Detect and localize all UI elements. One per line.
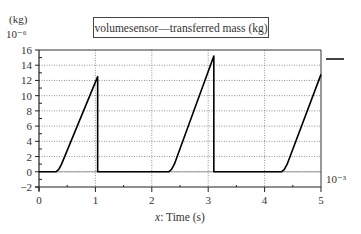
chart: −20246810121416012345 volumesensor—trans… <box>0 0 361 234</box>
x-tick-label: 2 <box>149 194 155 206</box>
y-tick-label: 6 <box>27 120 33 132</box>
y-tick-label: 0 <box>27 166 33 178</box>
y-tick-label: 2 <box>27 151 33 163</box>
x-tick-label: 5 <box>318 194 324 206</box>
chart-title: volumesensor—transferred mass (kg) <box>94 22 267 35</box>
x-tick-label: 1 <box>93 194 99 206</box>
x-tick-label: 3 <box>205 194 211 206</box>
y-tick-label: 4 <box>27 135 33 147</box>
y-scale-label: 10⁻⁶ <box>6 28 27 40</box>
y-unit-label: (kg) <box>9 13 28 26</box>
data-series <box>39 56 321 172</box>
x-tick-label: 0 <box>36 194 42 206</box>
y-tick-label: 16 <box>21 44 33 56</box>
y-tick-label: 10 <box>21 90 33 102</box>
grid-lines <box>39 50 321 187</box>
y-tick-label: 8 <box>27 105 33 117</box>
axis-labels: −20246810121416012345 <box>20 44 324 206</box>
x-axis-label: x: Time (s) <box>154 211 205 224</box>
x-scale-label: 10⁻³ <box>326 173 347 185</box>
axes <box>35 50 321 192</box>
x-tick-label: 4 <box>262 194 268 206</box>
y-tick-label: −2 <box>20 181 32 193</box>
series-line <box>39 56 321 172</box>
y-tick-label: 12 <box>21 74 32 86</box>
y-tick-label: 14 <box>21 59 33 71</box>
